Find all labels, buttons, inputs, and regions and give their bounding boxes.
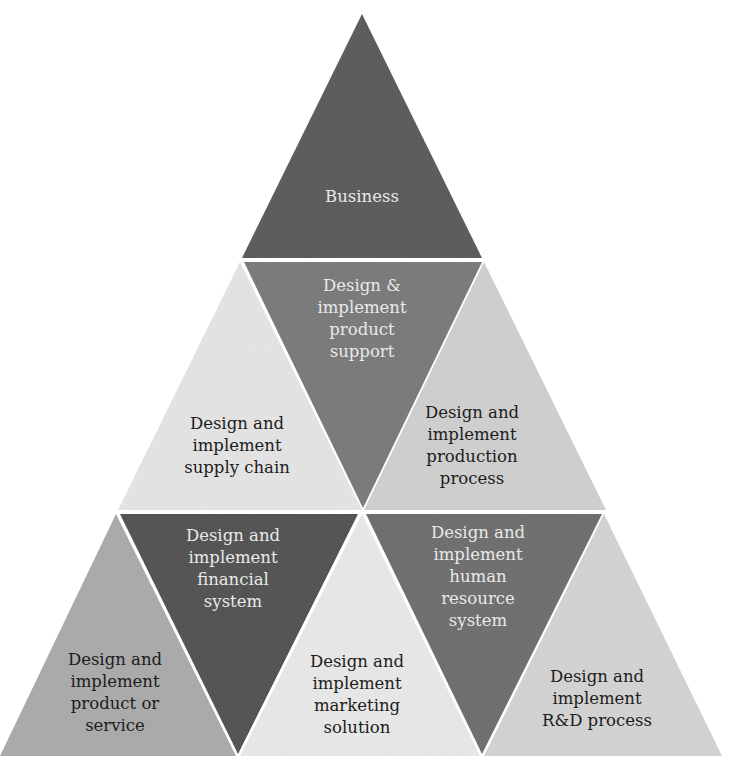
triangle-label-product-or-service: Design andimplementproduct orservice <box>68 649 162 737</box>
label-line: implement <box>317 297 406 319</box>
label-line: system <box>431 610 525 632</box>
label-line: system <box>186 591 280 613</box>
label-line: R&D process <box>542 710 652 732</box>
triangle-label-rd-process: Design andimplementR&D process <box>542 666 652 732</box>
label-line: Design and <box>310 651 404 673</box>
label-line: implement <box>186 547 280 569</box>
label-line: Design and <box>431 522 525 544</box>
triangle-business <box>242 14 482 258</box>
triangle-label-financial-system: Design andimplementfinancialsystem <box>186 525 280 613</box>
label-line: supply chain <box>184 457 290 479</box>
label-line: Design and <box>186 525 280 547</box>
label-line: Design and <box>542 666 652 688</box>
label-line: product or <box>68 693 162 715</box>
label-line: support <box>317 341 406 363</box>
label-line: resource <box>431 588 525 610</box>
triangle-label-human-resource-system: Design andimplementhumanresourcesystem <box>431 522 525 632</box>
label-line: Design and <box>68 649 162 671</box>
label-line: implement <box>184 435 290 457</box>
label-line: marketing <box>310 695 404 717</box>
label-line: Design & <box>317 275 406 297</box>
label-line: Design and <box>184 413 290 435</box>
triangle-label-production-process: Design andimplementproductionprocess <box>425 402 519 490</box>
label-line: service <box>68 715 162 737</box>
triangle-pyramid-diagram: BusinessDesign andimplementsupply chainD… <box>0 0 730 776</box>
triangle-label-business: Business <box>325 186 399 208</box>
label-line: implement <box>68 671 162 693</box>
label-line: implement <box>542 688 652 710</box>
label-line: Business <box>325 186 399 208</box>
label-line: financial <box>186 569 280 591</box>
label-line: Design and <box>425 402 519 424</box>
triangle-label-marketing-solution: Design andimplementmarketingsolution <box>310 651 404 739</box>
label-line: implement <box>425 424 519 446</box>
label-line: implement <box>431 544 525 566</box>
triangle-label-supply-chain: Design andimplementsupply chain <box>184 413 290 479</box>
triangle-label-product-support: Design &implementproductsupport <box>317 275 406 363</box>
label-line: solution <box>310 717 404 739</box>
label-line: process <box>425 468 519 490</box>
label-line: human <box>431 566 525 588</box>
label-line: product <box>317 319 406 341</box>
label-line: implement <box>310 673 404 695</box>
label-line: production <box>425 446 519 468</box>
